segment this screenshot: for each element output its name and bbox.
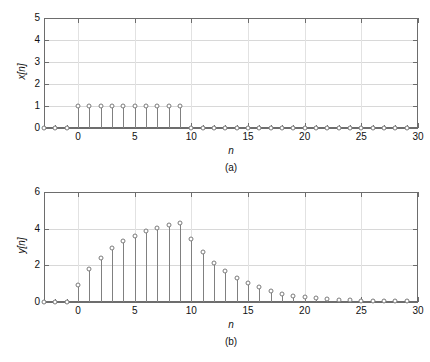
data-point-marker bbox=[280, 291, 285, 296]
stem-line bbox=[248, 283, 249, 302]
data-point-marker bbox=[314, 295, 319, 300]
y-axis-tick bbox=[44, 265, 49, 266]
data-point-marker bbox=[246, 280, 251, 285]
data-point-marker bbox=[359, 298, 364, 303]
data-point-marker bbox=[404, 299, 409, 304]
data-point-marker bbox=[200, 249, 205, 254]
x-tick-label: 0 bbox=[63, 306, 93, 316]
data-point-marker bbox=[64, 300, 69, 305]
x-axis-tick bbox=[418, 297, 419, 302]
data-point-marker bbox=[223, 269, 228, 274]
data-point-marker bbox=[257, 285, 262, 290]
x-axis-tick-top bbox=[361, 192, 362, 197]
gridline-vertical bbox=[361, 192, 362, 302]
data-point-marker bbox=[87, 267, 92, 272]
y-axis-tick-right bbox=[413, 229, 418, 230]
x-tick-label: 20 bbox=[290, 306, 320, 316]
data-point-marker bbox=[325, 296, 330, 301]
stem-line bbox=[169, 225, 170, 302]
data-point-marker bbox=[189, 236, 194, 241]
stem-line bbox=[203, 252, 204, 302]
data-point-marker bbox=[348, 298, 353, 303]
figure-stem-plots: 012345 051015202530 x[n] n (a) 0246 0510… bbox=[0, 0, 430, 362]
stem-line bbox=[191, 239, 192, 302]
x-axis-tick-top bbox=[248, 192, 249, 197]
data-point-marker bbox=[42, 300, 47, 305]
data-point-marker bbox=[53, 300, 58, 305]
data-point-marker bbox=[144, 229, 149, 234]
gridline-vertical bbox=[305, 192, 306, 302]
x-axis-title-b: n bbox=[228, 319, 234, 330]
data-point-marker bbox=[121, 239, 126, 244]
stem-line bbox=[123, 241, 124, 302]
y-axis-tick-right bbox=[413, 265, 418, 266]
stem-line bbox=[180, 223, 181, 302]
data-point-marker bbox=[166, 222, 171, 227]
x-tick-label: 30 bbox=[403, 306, 430, 316]
data-point-marker bbox=[268, 289, 273, 294]
data-point-marker bbox=[155, 225, 160, 230]
x-tick-label: 15 bbox=[233, 306, 263, 316]
x-axis-tick-top bbox=[305, 192, 306, 197]
data-point-marker bbox=[178, 220, 183, 225]
data-point-marker bbox=[291, 293, 296, 298]
data-point-marker bbox=[98, 256, 103, 261]
panel-caption-b: (b) bbox=[225, 336, 237, 347]
panel-b: 0246 051015202530 y[n] n (b) bbox=[0, 0, 430, 181]
data-point-marker bbox=[76, 282, 81, 287]
stem-line bbox=[214, 263, 215, 302]
data-point-marker bbox=[302, 294, 307, 299]
y-axis-tick bbox=[44, 192, 49, 193]
stem-line bbox=[157, 228, 158, 302]
data-point-marker bbox=[382, 299, 387, 304]
data-point-marker bbox=[370, 298, 375, 303]
stem-line bbox=[225, 271, 226, 302]
y-axis-tick bbox=[44, 229, 49, 230]
x-tick-label: 5 bbox=[120, 306, 150, 316]
y-tick-label: 6 bbox=[18, 187, 40, 197]
data-point-marker bbox=[132, 234, 137, 239]
x-axis-tick-top bbox=[135, 192, 136, 197]
stem-line bbox=[237, 278, 238, 302]
y-tick-label: 0 bbox=[18, 297, 40, 307]
stem-line bbox=[101, 258, 102, 302]
x-tick-label: 25 bbox=[346, 306, 376, 316]
stem-line bbox=[112, 248, 113, 302]
data-point-marker bbox=[110, 246, 115, 251]
x-axis-tick-top bbox=[191, 192, 192, 197]
y-axis-title-b: y[n] bbox=[16, 223, 27, 269]
stem-line bbox=[135, 236, 136, 302]
x-tick-label: 10 bbox=[176, 306, 206, 316]
stem-line bbox=[78, 285, 79, 302]
stem-line bbox=[89, 269, 90, 302]
data-point-marker bbox=[234, 275, 239, 280]
data-point-marker bbox=[212, 260, 217, 265]
data-point-marker bbox=[393, 299, 398, 304]
data-point-marker bbox=[336, 297, 341, 302]
stem-line bbox=[146, 231, 147, 302]
x-axis-tick-top bbox=[418, 192, 419, 197]
x-axis-tick-top bbox=[78, 192, 79, 197]
